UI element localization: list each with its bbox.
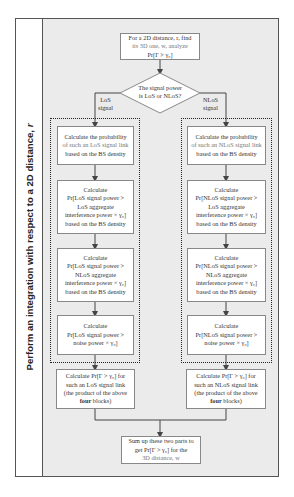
outer-label-variable: r xyxy=(24,124,35,128)
start-box-line: Pr[Γ > γ₀] xyxy=(147,51,172,59)
step-line: Pr[LoS signal power > xyxy=(67,331,124,339)
branch-label-line: NLoS xyxy=(203,96,218,104)
step-line: Pr[LoS signal power > xyxy=(67,262,124,270)
step-line: LoS aggregate xyxy=(208,203,245,211)
los-step-los-interference: Calculate Pr[LoS signal power > LoS aggr… xyxy=(57,180,134,234)
step-line: Pr[LoS signal power > xyxy=(67,194,124,202)
step-line: Calculate xyxy=(84,254,108,262)
nlos-step-nlos-interference: Calculate Pr[NLoS signal power > NLoS ag… xyxy=(187,248,266,302)
product-bold-word: four xyxy=(80,397,92,404)
step-line: interference power × γ₀] xyxy=(196,211,257,219)
nlos-step-los-interference: Calculate Pr[NLoS signal power > LoS agg… xyxy=(187,180,266,234)
product-line: (the product of the above xyxy=(64,389,127,397)
step-line: noise power × γ₀] xyxy=(204,339,248,347)
product-line: (the product of the above xyxy=(194,389,257,397)
branch-label-line: signal xyxy=(98,104,113,112)
decision-text: The signal power is LoS or NLoS? xyxy=(120,84,200,101)
end-box-line: get Pr[Γ > γ₀] for the xyxy=(135,446,188,454)
branch-label-nlos: NLoS signal xyxy=(203,96,218,113)
step-line: interference power × γ₀] xyxy=(65,279,126,287)
step-line: Calculate xyxy=(215,186,239,194)
end-box-line: Sum up these two parts to xyxy=(128,437,193,445)
end-box: Sum up these two parts to get Pr[Γ > γ₀]… xyxy=(121,436,201,464)
step-line: based on the BS density xyxy=(196,150,257,158)
decision-line: The signal power xyxy=(120,84,200,92)
nlos-step-noise: Calculate Pr[NLoS signal power > noise p… xyxy=(187,315,266,355)
product-line: Calculate Pr[Γ > γ₀] for xyxy=(66,372,125,380)
step-line: of such an LoS signal link xyxy=(63,141,129,149)
step-line: based on the BS density xyxy=(196,220,257,228)
product-bold-word: four xyxy=(210,397,222,404)
step-line: interference power × γ₀] xyxy=(65,211,126,219)
nlos-step-probability: Calculate the probability of such an NLo… xyxy=(187,126,266,165)
outer-label-prefix: Perform an integration with respect to a… xyxy=(24,127,35,370)
los-step-noise: Calculate Pr[LoS signal power > noise po… xyxy=(57,315,134,355)
start-box-line: For a 2D distance, r, find xyxy=(129,34,192,42)
step-line: based on the BS density xyxy=(65,220,126,228)
nlos-product-box: Calculate Pr[Γ > γ₀] for such an NLoS si… xyxy=(186,369,266,409)
product-line: Calculate Pr[Γ > γ₀] for xyxy=(196,372,255,380)
branch-label-line: signal xyxy=(203,104,218,112)
branch-label-los: LoS signal xyxy=(98,96,113,113)
step-line: NLoS aggregate xyxy=(75,271,116,279)
product-line: such an NLoS signal link xyxy=(194,381,258,389)
step-line: Calculate xyxy=(84,322,108,330)
los-step-probability: Calculate the probability of such an LoS… xyxy=(57,126,134,165)
step-line: Calculate xyxy=(215,322,239,330)
decision-line: is LoS or NLoS? xyxy=(120,92,200,100)
step-line: Calculate xyxy=(84,186,108,194)
step-line: based on the BS density xyxy=(196,288,257,296)
los-step-nlos-interference: Calculate Pr[LoS signal power > NLoS agg… xyxy=(57,248,134,302)
step-line: Calculate xyxy=(215,254,239,262)
product-line: such an LoS signal link xyxy=(66,381,125,389)
step-line: noise power × γ₀] xyxy=(73,339,117,347)
step-line: Pr[NLoS signal power > xyxy=(196,331,258,339)
step-line: Calculate the probability xyxy=(64,133,126,141)
step-line: Pr[NLoS signal power > xyxy=(196,194,258,202)
step-line: Pr[NLoS signal power > xyxy=(196,262,258,270)
step-line: NLoS aggregate xyxy=(206,271,247,279)
step-line: based on the BS density xyxy=(65,150,126,158)
step-line: Calculate the probability xyxy=(195,133,257,141)
step-line: of such an NLoS signal link xyxy=(191,141,261,149)
start-box: For a 2D distance, r, find its 3D one, w… xyxy=(120,33,200,60)
end-box-line: 3D distance, w xyxy=(142,454,180,462)
los-product-box: Calculate Pr[Γ > γ₀] for such an LoS sig… xyxy=(56,369,135,409)
outer-label: Perform an integration with respect to a… xyxy=(24,124,35,371)
branch-label-line: LoS xyxy=(98,96,113,104)
start-box-line: its 3D one, w, analyze xyxy=(132,42,188,50)
step-line: interference power × γ₀] xyxy=(196,279,257,287)
step-line: based on the BS density xyxy=(65,288,126,296)
step-line: LoS aggregate xyxy=(77,203,114,211)
